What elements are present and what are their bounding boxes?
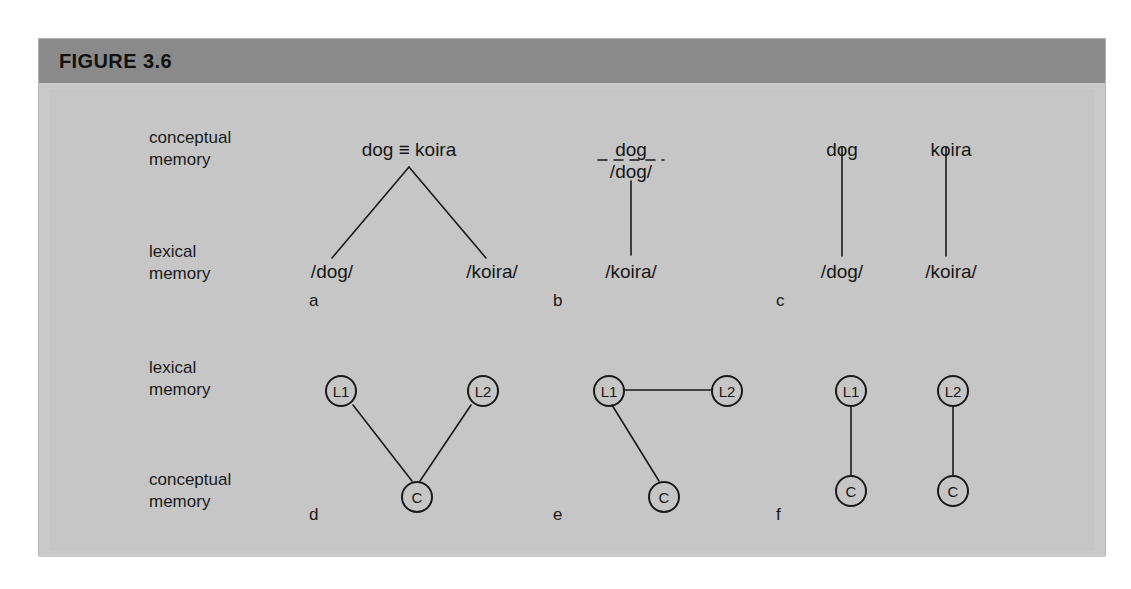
panel-f-node-c2-label: C (939, 477, 967, 505)
panel-letter-a: a (309, 291, 318, 311)
panel-d-node-c: C (401, 481, 433, 513)
panel-e-node-l1: L1 (593, 375, 625, 407)
label-top-conceptual-memory: conceptual memory (149, 127, 231, 171)
panel-a-top-node: dog ≡ koira (362, 139, 457, 161)
panel-letter-c: c (776, 291, 785, 311)
panel-letter-b: b (553, 291, 562, 311)
label-bottom-lexical-memory: lexical memory (149, 357, 210, 401)
panel-e-node-l2: L2 (711, 375, 743, 407)
panel-c-right-top: koira (930, 139, 971, 161)
label-line-lexical: lexical (149, 357, 210, 379)
panel-f-node-l2-label: L2 (939, 377, 967, 405)
panel-e-node-c: C (648, 481, 680, 513)
panel-a-right-leaf: /koira/ (466, 261, 518, 283)
panel-d-node-c-label: C (403, 483, 431, 511)
panel-e-node-l1-label: L1 (595, 377, 623, 405)
panel-c-left-top: dog (826, 139, 858, 161)
label-line-memory: memory (149, 491, 231, 513)
panel-f-node-c2: C (937, 475, 969, 507)
panel-f-node-c1-label: C (837, 477, 865, 505)
panel-f-node-l2: L2 (937, 375, 969, 407)
label-line-conceptual: conceptual (149, 127, 231, 149)
label-line-memory: memory (149, 379, 210, 401)
panel-e-node-c-label: C (650, 483, 678, 511)
panel-d-node-l1-label: L1 (327, 377, 355, 405)
panel-c-left-bottom: /dog/ (821, 261, 863, 283)
label-top-lexical-memory: lexical memory (149, 241, 210, 285)
figure-header-band: FIGURE 3.6 (39, 39, 1105, 83)
figure-title: FIGURE 3.6 (59, 50, 172, 73)
panel-d-node-l2-label: L2 (469, 377, 497, 405)
label-line-conceptual: conceptual (149, 469, 231, 491)
label-bottom-conceptual-memory: conceptual memory (149, 469, 231, 513)
panel-letter-f: f (776, 505, 781, 525)
panel-d-node-l1: L1 (325, 375, 357, 407)
panel-a-left-leaf: /dog/ (311, 261, 353, 283)
figure-frame: FIGURE 3.6 conceptual memory lexical mem… (38, 38, 1106, 556)
panel-d-node-l2: L2 (467, 375, 499, 407)
figure-root: FIGURE 3.6 conceptual memory lexical mem… (0, 0, 1131, 589)
panel-f-node-c1: C (835, 475, 867, 507)
panel-c-right-bottom: /koira/ (925, 261, 977, 283)
panel-letter-d: d (309, 505, 318, 525)
label-line-memory: memory (149, 263, 210, 285)
panel-b-bottom-node: /koira/ (605, 261, 657, 283)
label-line-memory: memory (149, 149, 231, 171)
panel-f-node-l1: L1 (835, 375, 867, 407)
panel-b-top-node: dog (615, 139, 647, 161)
label-line-lexical: lexical (149, 241, 210, 263)
panel-letter-e: e (553, 505, 562, 525)
panel-f-node-l1-label: L1 (837, 377, 865, 405)
panel-e-node-l2-label: L2 (713, 377, 741, 405)
panel-b-mid-node: /dog/ (610, 161, 652, 183)
